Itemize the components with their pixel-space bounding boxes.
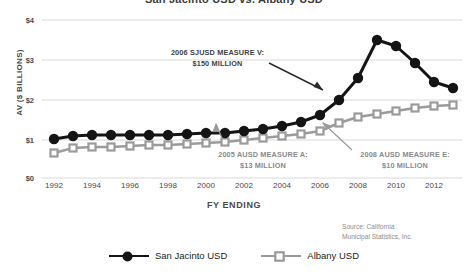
annotation-line-2: $13 MILLION: [203, 161, 323, 172]
legend-label-albany-usd: Albany USD: [307, 250, 359, 261]
source-line-2: Municipal Statistics, Inc.: [342, 232, 462, 242]
annotation-line-2: $10 MILLION: [345, 161, 465, 172]
annotation-line-1: 2006 SJUSD MEASURE V:: [155, 48, 280, 59]
source-attribution: Source: California Municipal Statistics,…: [342, 222, 462, 242]
filled-circle-icon: [122, 251, 133, 262]
annotation-line-1: 2005 AUSD MEASURE A:: [203, 150, 323, 161]
source-line-1: Source: California: [342, 222, 462, 232]
legend-label-san-jacinto-usd: San Jacinto USD: [155, 250, 227, 261]
legend-swatch-gray: [261, 251, 301, 261]
legend-swatch-dark: [109, 251, 149, 261]
annotation-sjusd-measure-v: 2006 SJUSD MEASURE V: $150 MILLION: [155, 48, 280, 69]
annotation-ausd-measure-e: 2008 AUSD MEASURE E: $10 MILLION: [345, 150, 465, 171]
chart-legend: San Jacinto USD Albany USD: [0, 250, 468, 261]
annotation-line-1: 2008 AUSD MEASURE E:: [345, 150, 465, 161]
open-square-icon: [274, 251, 285, 262]
annotation-ausd-measure-a: 2005 AUSD MEASURE A: $13 MILLION: [203, 150, 323, 171]
legend-item-albany-usd[interactable]: Albany USD: [261, 250, 359, 261]
legend-item-san-jacinto-usd[interactable]: San Jacinto USD: [109, 250, 227, 261]
chart-figure: San Jacinto USD vs. Albany USD AV ($ BIL…: [0, 0, 468, 275]
annotation-line-2: $150 MILLION: [155, 59, 280, 70]
